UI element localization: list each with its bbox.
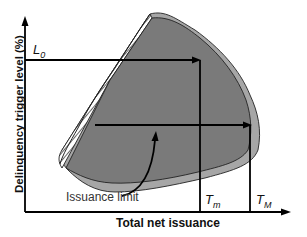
issuance-limit-label: Issuance limit xyxy=(66,190,139,204)
tm-label: Tm xyxy=(205,192,220,210)
tm-text: T xyxy=(205,192,213,207)
tm-sub: m xyxy=(213,200,221,210)
tM-sub: M xyxy=(264,200,272,210)
x-axis-arrow-icon xyxy=(281,209,291,216)
y-axis-label: Delinquency trigger level (%) xyxy=(13,19,25,209)
tM-text: T xyxy=(256,192,264,207)
l0-sub: 0 xyxy=(40,50,45,60)
l0-label: L0 xyxy=(33,42,45,60)
x-axis-label: Total net issuance xyxy=(116,216,220,230)
tM-label: TM xyxy=(256,192,271,210)
